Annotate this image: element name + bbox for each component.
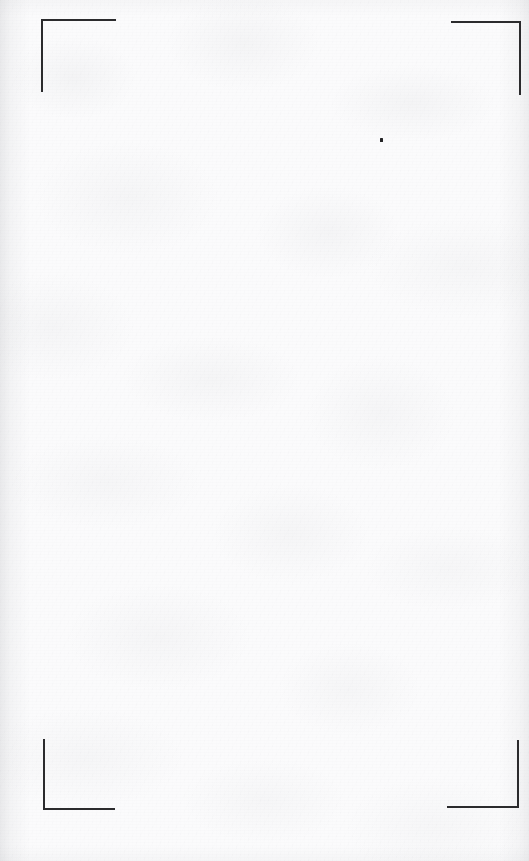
- page-body-text: [120, 110, 410, 710]
- crop-mark-vertical-arm: [43, 739, 45, 810]
- crop-mark-horizontal-arm: [41, 19, 116, 21]
- scanned-page: [0, 0, 529, 861]
- crop-mark-vertical-arm: [519, 21, 521, 95]
- crop-mark-bottom-left: [43, 739, 115, 810]
- crop-mark-vertical-arm: [41, 19, 43, 92]
- crop-mark-horizontal-arm: [447, 806, 519, 808]
- crop-mark-top-left: [41, 19, 116, 92]
- crop-mark-vertical-arm: [517, 740, 519, 808]
- crop-mark-bottom-right: [447, 740, 519, 808]
- crop-mark-top-right: [451, 21, 521, 95]
- crop-mark-horizontal-arm: [451, 21, 521, 23]
- crop-mark-horizontal-arm: [43, 808, 115, 810]
